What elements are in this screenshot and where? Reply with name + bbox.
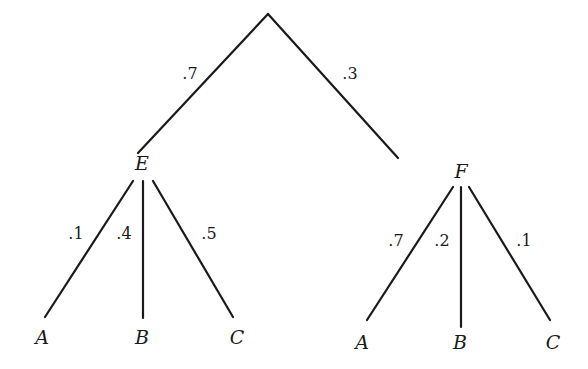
probability-tree-diagram: .7 .3 E .1 .4 .5 A B C F .7 .2 .1 A B C: [0, 0, 588, 369]
prob-root-F: .3: [342, 64, 357, 83]
leaf-F-B: B: [452, 331, 467, 353]
prob-root-E: .7: [182, 64, 197, 83]
node-F: F: [453, 160, 468, 182]
edge-root-to-E: [138, 14, 268, 153]
prob-E-C: .5: [201, 224, 216, 243]
leaf-F-A: A: [353, 331, 369, 353]
edge-F-to-C: [469, 187, 550, 320]
prob-F-A: .7: [388, 231, 403, 250]
prob-F-C: .1: [516, 231, 531, 250]
leaf-E-C: C: [230, 326, 245, 348]
edge-E-to-C: [153, 181, 233, 317]
node-E: E: [134, 152, 149, 174]
edge-E-to-A: [45, 181, 133, 317]
edge-F-to-A: [367, 187, 453, 320]
prob-E-B: .4: [116, 224, 131, 243]
leaf-F-C: C: [546, 331, 561, 353]
leaf-E-B: B: [134, 326, 149, 348]
prob-F-B: .2: [434, 231, 449, 250]
edge-root-to-F: [268, 14, 398, 158]
prob-E-A: .1: [68, 224, 83, 243]
leaf-E-A: A: [33, 326, 49, 348]
